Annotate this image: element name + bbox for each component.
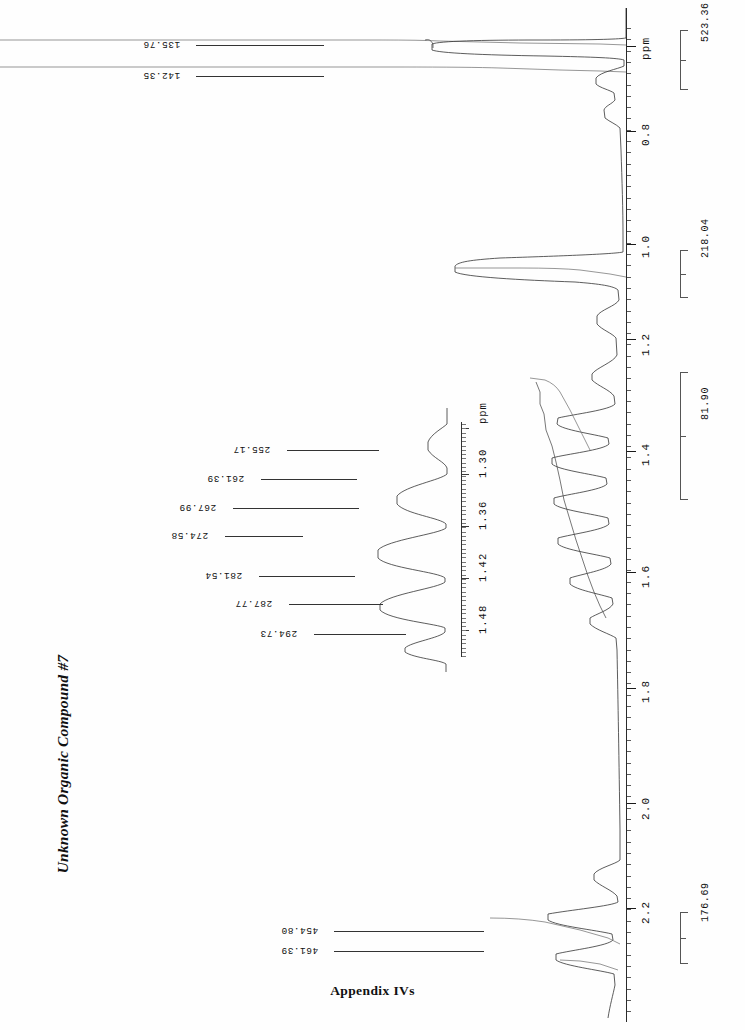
axis-tick-label-7: 2.2 — [640, 901, 652, 924]
inset-tick-minor — [462, 514, 466, 515]
inset-tick-minor — [462, 489, 466, 490]
inset-tick-minor — [462, 493, 466, 494]
inset-tick-minor — [462, 476, 466, 477]
page-title: Unknown Organic Compound #7 — [54, 639, 72, 889]
inset-peak-label-255: 255.17 — [233, 444, 270, 455]
axis-tick-minor — [627, 491, 631, 492]
inset-tick-minor — [462, 570, 466, 571]
inset-peak-leader — [225, 536, 303, 537]
axis-tick-minor — [627, 796, 631, 797]
inset-peak-leader — [287, 450, 379, 451]
axis-tick-minor — [627, 277, 631, 278]
axis-tick-minor — [627, 853, 631, 854]
inset-tick-minor — [462, 506, 466, 507]
axis-tick-minor — [627, 740, 631, 741]
inset-peak-label-281: 281.54 — [205, 570, 242, 581]
axis-tick-minor — [627, 175, 631, 176]
axis-tick-minor — [627, 344, 631, 345]
integral-value-2: 81.90 — [700, 387, 711, 420]
axis-tick-minor — [627, 299, 631, 300]
axis-tick-label-3: 1.4 — [640, 443, 652, 466]
peak-label-461: 461.39 — [281, 945, 318, 956]
axis-tick-minor — [627, 966, 631, 967]
inset-tick-minor — [462, 480, 466, 481]
inset-tick-minor — [462, 562, 466, 563]
inset-tick-label-2: 1.42 — [477, 553, 489, 582]
axis-tick-minor — [627, 378, 631, 379]
inset-tick-minor — [462, 428, 466, 429]
axis-tick-minor — [627, 288, 631, 289]
inset-peak-label-287: 287.77 — [235, 598, 272, 609]
axis-tick-minor — [627, 390, 631, 391]
axis-tick-minor — [627, 243, 631, 244]
axis-tick-minor — [627, 367, 631, 368]
axis-tick-minor — [627, 593, 631, 594]
axis-tick-minor — [627, 525, 631, 526]
inset-peak-leader — [289, 604, 383, 605]
inset-peak-label-274: 274.58 — [171, 530, 208, 541]
inset-tick-minor — [462, 532, 466, 533]
axis-tick-minor — [627, 39, 631, 40]
axis-tick-minor — [627, 808, 631, 809]
inset-tick-minor — [462, 626, 466, 627]
peak-leader-line — [196, 76, 324, 77]
axis-tick-major — [627, 451, 636, 452]
axis-tick-minor — [627, 322, 631, 323]
inset-tick-minor — [462, 536, 466, 537]
inset-tick-minor — [462, 613, 466, 614]
axis-tick-minor — [627, 582, 631, 583]
peak-leader-line — [196, 45, 324, 46]
integral-bracket-1 — [680, 250, 681, 298]
axis-tick-minor — [627, 503, 631, 504]
axis-line — [626, 8, 627, 1022]
axis-tick-minor — [627, 570, 631, 571]
axis-tick-minor — [627, 107, 631, 108]
inset-tick-minor — [462, 635, 466, 636]
inset-tick-minor — [462, 424, 466, 425]
inset-peak-leader — [261, 479, 357, 480]
integral-value-0: 523.36 — [700, 2, 711, 42]
inset-peak-label-294: 294.73 — [260, 628, 297, 639]
axis-tick-minor — [627, 909, 631, 910]
axis-tick-minor — [627, 604, 631, 605]
axis-tick-minor — [627, 141, 631, 142]
axis-tick-minor — [627, 96, 631, 97]
axis-tick-minor — [627, 73, 631, 74]
axis-tick-minor — [627, 186, 631, 187]
inset-tick-minor — [462, 622, 466, 623]
axis-unit-label: ppm — [640, 37, 652, 60]
axis-tick-minor — [627, 864, 631, 865]
axis-tick-minor — [627, 706, 631, 707]
axis-tick-minor — [627, 683, 631, 684]
inset-tick-minor — [462, 609, 466, 610]
axis-tick-minor — [627, 265, 631, 266]
axis-tick-minor — [627, 943, 631, 944]
axis-tick-minor — [627, 1011, 631, 1012]
axis-tick-minor — [627, 62, 631, 63]
inset-tick-label-0: 1.30 — [477, 449, 489, 478]
axis-tick-minor — [627, 638, 631, 639]
axis-tick-minor — [627, 537, 631, 538]
inset-tick-minor — [462, 566, 466, 567]
axis-tick-minor — [627, 424, 631, 425]
axis-tick-minor — [627, 785, 631, 786]
axis-tick-minor — [627, 333, 631, 334]
inset-peak-label-261: 261.39 — [207, 473, 244, 484]
inset-tick-minor — [462, 433, 466, 434]
axis-tick-minor — [627, 412, 631, 413]
axis-tick-minor — [627, 311, 631, 312]
inset-tick-minor — [462, 510, 466, 511]
inset-tick-minor — [462, 484, 466, 485]
axis-tick-minor — [627, 457, 631, 458]
axis-tick-label-0: 0.8 — [640, 123, 652, 146]
axis-tick-minor — [627, 774, 631, 775]
inset-tick-label-3: 1.48 — [477, 605, 489, 634]
axis-tick-major — [627, 244, 636, 245]
inset-tick-minor — [462, 527, 466, 528]
axis-tick-minor — [627, 198, 631, 199]
axis-tick-minor — [627, 977, 631, 978]
integral-bracket-2 — [680, 372, 681, 500]
peak-leader-line — [334, 931, 484, 932]
axis-tick-minor — [627, 751, 631, 752]
axis-tick-minor — [627, 514, 631, 515]
